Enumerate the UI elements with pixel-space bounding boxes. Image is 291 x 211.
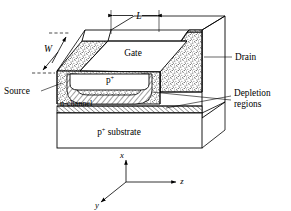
source-slab-top-strip bbox=[82, 30, 111, 41]
y-axis-arrow bbox=[101, 182, 126, 202]
width-label: W bbox=[44, 43, 53, 54]
source-label: Source bbox=[4, 86, 30, 96]
gate-label: Gate bbox=[124, 48, 142, 58]
x-axis-label: x bbox=[119, 150, 124, 160]
substrate-depletion-hatch bbox=[57, 106, 202, 113]
source-callout: Source bbox=[4, 83, 62, 96]
length-label: L bbox=[135, 10, 141, 21]
substrate-depletion-strip bbox=[57, 106, 202, 113]
device-diagram-svg: L bbox=[0, 0, 291, 211]
substrate-bottom-receding-edge bbox=[202, 130, 225, 148]
z-axis-label: z bbox=[179, 176, 184, 186]
block-right-face bbox=[202, 16, 225, 118]
coordinate-axes: x z y bbox=[94, 150, 184, 210]
width-arrow-down bbox=[43, 52, 58, 70]
drain-label: Drain bbox=[235, 52, 257, 62]
y-axis-label: y bbox=[94, 200, 99, 210]
depletion-label-line1: Depletion bbox=[234, 88, 271, 98]
jfet-structure-figure: L bbox=[0, 0, 291, 211]
cross-section-face: p+ n-channel bbox=[57, 71, 160, 108]
width-arrow-up bbox=[52, 37, 66, 63]
depletion-label-line2: regions bbox=[234, 99, 262, 109]
top-left-receding-edge bbox=[111, 16, 134, 30]
